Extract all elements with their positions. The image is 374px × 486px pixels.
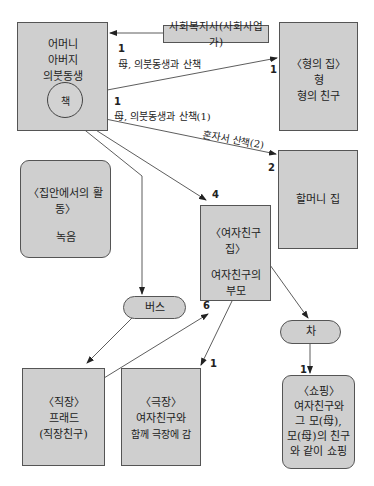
node-home-activity: 〈집안에서의 활동〉 녹음 (20, 160, 111, 258)
brother-house-title: 〈형의 집〉 (291, 57, 347, 73)
shopping-line-2: 그 모(母), (295, 414, 342, 429)
brother-house-friend: 형의 친구 (297, 89, 341, 105)
shopping-line-1: 여자친구와 (294, 399, 344, 414)
girlfriend-house-line-1: 여자친구의 (211, 268, 261, 284)
edge-label-theater-num: 1 (210, 358, 217, 369)
node-self-circle: 책 (47, 82, 83, 118)
node-shopping: 〈쇼핑〉 여자친구와 그 모(母), 모(母)의 친구 와 같이 쇼핑 (282, 375, 355, 469)
node-grandma-house: 할머니 집 (278, 150, 358, 249)
girlfriend-house-title: 〈여자친구 집〉 (201, 226, 270, 258)
theater-line-1: 여자친구와 (136, 411, 186, 427)
home-activity-title: 〈집안에서의 활동〉 (21, 186, 110, 218)
work-title: 〈직장〉 (43, 395, 85, 411)
edge-label-grandma-num: 2 (268, 162, 275, 173)
edge-label-girlfriend-num: 4 (212, 189, 219, 200)
family-line-father: 아버지 (48, 53, 78, 69)
brother-house-brother: 형 (314, 73, 324, 89)
edge-bus-work (87, 318, 132, 363)
edge-label-brother-end-num: 1 (270, 64, 277, 75)
family-line-mother: 어머니 (48, 37, 78, 53)
work-friend: (직장친구) (39, 427, 88, 443)
edge-girlfriend-car (270, 265, 308, 318)
work-fred: 프래드 (49, 411, 79, 427)
theater-title: 〈극장〉 (140, 395, 182, 411)
node-social-worker: 사회복지사(사회사업가) (163, 25, 269, 43)
shopping-title: 〈쇼핑〉 (298, 384, 340, 399)
grandma-house-label: 할머니 집 (296, 192, 340, 208)
edge-label-brother-walk: 母, 의붓동생과 산책 (118, 56, 201, 71)
edge-label-walk1: 母, 의붓동생과 산책(1) (114, 108, 211, 123)
node-bus: 버스 (123, 296, 186, 319)
node-car: 차 (280, 320, 341, 344)
self-label: 책 (61, 93, 70, 108)
girlfriend-house-line-2: 부모 (226, 284, 246, 300)
edge-label-walk1-num: 1 (114, 96, 121, 107)
bus-label: 버스 (145, 300, 165, 316)
social-worker-label: 사회복지사(사회사업가) (164, 18, 268, 50)
node-brother-house: 〈형의 집〉 형 형의 친구 (279, 22, 358, 131)
shopping-line-4: 와 같이 쇼핑 (290, 444, 347, 459)
edge-label-shopping-num: 1 (300, 364, 307, 375)
node-work: 〈직장〉 프래드 (직장친구) (22, 368, 105, 466)
node-girlfriend-house: 〈여자친구 집〉 여자친구의 부모 (200, 205, 271, 301)
edge-label-bus-gf-num: 6 (203, 300, 210, 311)
node-theater: 〈극장〉 여자친구와 함께 극장에 감 (121, 368, 201, 466)
edge-label-brother-walk-num: 1 (118, 43, 125, 54)
car-label: 차 (306, 324, 316, 340)
home-activity-detail: 녹음 (56, 230, 76, 246)
theater-line-2: 함께 극장에 감 (131, 427, 191, 443)
shopping-line-3: 모(母)의 친구 (287, 429, 350, 444)
